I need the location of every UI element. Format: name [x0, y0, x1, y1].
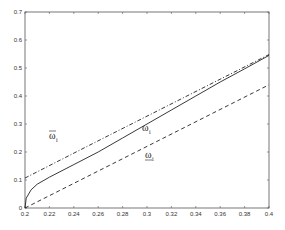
y-tick-label: 0.3	[14, 121, 23, 127]
y-tick-label: 0.4	[14, 93, 23, 99]
y-tick-label: 0.5	[14, 65, 23, 71]
y-tick-label: 0.2	[14, 149, 23, 155]
x-tick-label: 0.38	[239, 211, 251, 217]
x-tick-label: 0.32	[166, 211, 178, 217]
x-tick-label: 0.26	[92, 211, 104, 217]
curve-label: ω	[49, 130, 56, 141]
x-tick-label: 0.24	[68, 211, 80, 217]
curve-label: ω	[145, 149, 152, 160]
line-chart: 0.20.220.240.260.280.30.320.340.360.380.…	[0, 0, 285, 230]
x-tick-label: 0.2	[21, 211, 30, 217]
plot-area	[25, 12, 269, 208]
x-tick-label: 0.4	[265, 211, 274, 217]
curve-label: ω	[142, 122, 149, 133]
x-tick-label: 0.3	[143, 211, 152, 217]
y-tick-label: 0.1	[14, 177, 23, 183]
y-tick-label: 0.6	[14, 37, 23, 43]
x-tick-label: 0.22	[44, 211, 56, 217]
y-tick-label: 0.7	[14, 9, 23, 15]
x-tick-label: 0.36	[214, 211, 226, 217]
x-tick-label: 0.34	[190, 211, 202, 217]
x-tick-label: 0.28	[117, 211, 129, 217]
